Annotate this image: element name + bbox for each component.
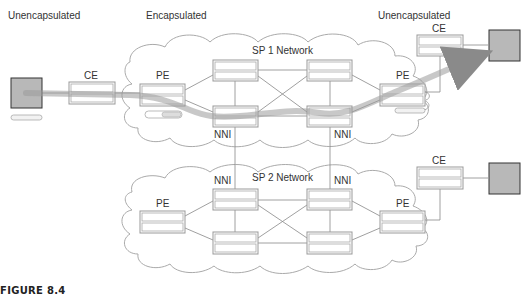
sp1-router-top-right bbox=[307, 60, 352, 81]
pe-sp1-left-tag-inner bbox=[162, 112, 181, 117]
sp2-nni-router-left bbox=[213, 189, 258, 210]
sp1-router-top-left bbox=[213, 60, 258, 81]
label-left-unencapsulated: Unencapsulated bbox=[8, 10, 80, 21]
label-right-unencapsulated: Unencapsulated bbox=[378, 10, 450, 21]
ce-right-bottom-device bbox=[417, 167, 463, 189]
label-nni-sp2-left: NNI bbox=[214, 175, 231, 186]
label-sp2-network: SP 2 Network bbox=[252, 172, 313, 183]
label-ce-right-top: CE bbox=[432, 23, 446, 34]
ce-right-top-device bbox=[417, 35, 463, 56]
figure-caption: FIGURE 8.4 bbox=[0, 285, 66, 296]
host-right-top bbox=[489, 30, 520, 61]
host-right-bottom bbox=[489, 163, 520, 194]
sp2-nni-router-right bbox=[307, 189, 352, 210]
host-left-tag bbox=[11, 115, 42, 120]
pe-sp1-right-tag bbox=[395, 108, 425, 113]
label-pe-sp1-right: PE bbox=[396, 70, 409, 81]
sp2-router-bottom-right bbox=[307, 232, 352, 254]
label-ce-right-bottom: CE bbox=[432, 155, 446, 166]
label-ce-left: CE bbox=[84, 70, 98, 81]
sp2-router-bottom-left bbox=[213, 232, 258, 254]
label-nni-sp1-right: NNI bbox=[334, 129, 351, 140]
label-nni-sp1-left: NNI bbox=[214, 129, 231, 140]
pe-sp2-right-device bbox=[380, 211, 425, 233]
label-pe-sp1-left: PE bbox=[156, 70, 169, 81]
label-pe-sp2-left: PE bbox=[156, 198, 169, 209]
label-encapsulated: Encapsulated bbox=[146, 10, 207, 21]
label-sp1-network: SP 1 Network bbox=[252, 45, 313, 56]
pe-sp2-left-device bbox=[140, 211, 185, 233]
label-nni-sp2-right: NNI bbox=[334, 175, 351, 186]
label-pe-sp2-right: PE bbox=[396, 198, 409, 209]
